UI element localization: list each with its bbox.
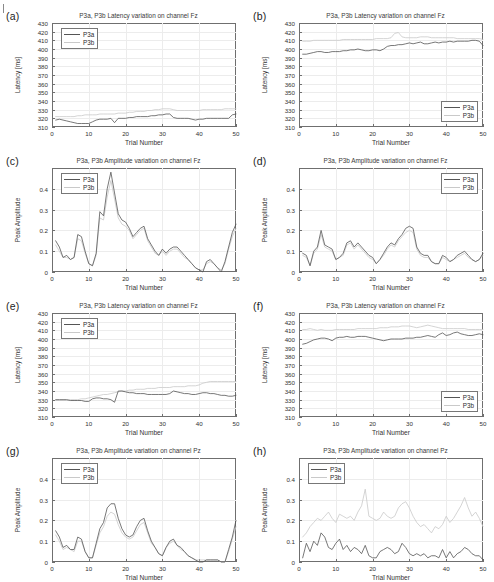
legend-swatch-P3b [311, 477, 327, 478]
y-tick-label: 320 [38, 115, 48, 122]
y-tick-label: 0 [45, 559, 48, 566]
x-tick-label: 30 [159, 565, 166, 572]
y-tick-label: 340 [38, 388, 48, 395]
y-tick-label: 360 [285, 370, 295, 377]
x-tick-label: 30 [406, 130, 413, 137]
legend-swatch-P3a [444, 397, 460, 398]
x-tick-mark [236, 269, 237, 272]
y-tick-label: 0.1 [39, 248, 48, 255]
y-tick-label: 350 [285, 379, 295, 386]
y-tick-mark [299, 417, 302, 418]
series-line-P3a [303, 533, 483, 560]
y-axis-label-f: Latency [ms] [261, 347, 268, 383]
legend-entry-P3a: P3a [444, 104, 474, 111]
plot-area-g: 00.10.20.30.401020304050P3aP3b [52, 458, 236, 562]
x-tick-label: 10 [85, 275, 92, 282]
series-line-P3a [56, 391, 236, 402]
plot-area-a: 3103203303403503603703803904004104204300… [52, 23, 236, 127]
y-axis-label-c: Peak Amplitude [14, 198, 21, 242]
y-tick-label: 370 [285, 72, 295, 79]
chart-panel-a: (a)P3a, P3b Latency variation on channel… [0, 8, 247, 153]
x-tick-label: 20 [369, 130, 376, 137]
x-tick-label: 0 [50, 275, 53, 282]
legend-label-P3b: P3b [83, 329, 94, 336]
legend-swatch-P3b [64, 42, 80, 43]
y-axis-label-h: Peak Amplitude [261, 488, 268, 532]
series-line-P3a [56, 504, 236, 562]
x-tick-label: 40 [196, 565, 203, 572]
y-tick-label: 360 [38, 80, 48, 87]
y-tick-label: 370 [285, 362, 295, 369]
x-tick-label: 10 [85, 130, 92, 137]
x-axis-label-c: Trial Number [125, 284, 163, 291]
series-line-P3b [303, 33, 483, 42]
y-tick-label: 0.4 [39, 185, 48, 192]
x-tick-label: 30 [406, 275, 413, 282]
y-tick-label: 430 [285, 20, 295, 27]
legend-label-P3a: P3a [463, 104, 474, 111]
y-tick-label: 390 [38, 54, 48, 61]
legend-entry-P3a: P3a [64, 31, 94, 38]
legend-swatch-P3a [64, 34, 80, 35]
legend-swatch-P3b [444, 405, 460, 406]
panel-letter-d: (d) [253, 155, 266, 167]
y-tick-label: 0.1 [39, 538, 48, 545]
plot-area-e: 3103203303403503603703803904004104204300… [52, 313, 236, 417]
panel-letter-c: (c) [6, 155, 19, 167]
x-tick-label: 20 [122, 130, 129, 137]
y-tick-label: 330 [285, 106, 295, 113]
y-tick-label: 410 [38, 327, 48, 334]
legend-label-P3a: P3a [83, 176, 94, 183]
legend-label-P3b: P3b [83, 184, 94, 191]
x-tick-label: 30 [159, 130, 166, 137]
chart-panel-g: (g)P3a, P3b Amplitude variation on chann… [0, 443, 247, 582]
x-tick-label: 40 [443, 565, 450, 572]
x-tick-label: 0 [297, 565, 300, 572]
x-tick-label: 10 [85, 420, 92, 427]
x-tick-label: 20 [369, 565, 376, 572]
y-tick-label: 350 [285, 89, 295, 96]
chart-panel-h: (h)P3a, P3b Amplitude variation on chann… [247, 443, 494, 582]
panel-letter-f: (f) [253, 300, 264, 312]
y-tick-label: 340 [285, 388, 295, 395]
y-tick-label: 310 [38, 124, 48, 131]
y-tick-label: 0.4 [39, 475, 48, 482]
x-tick-label: 10 [85, 565, 92, 572]
x-tick-mark [236, 124, 237, 127]
x-tick-label: 10 [332, 565, 339, 572]
x-axis-label-f: Trial Number [372, 429, 410, 436]
series-line-P3b [56, 512, 236, 562]
y-tick-label: 350 [38, 89, 48, 96]
x-tick-label: 0 [297, 130, 300, 137]
x-tick-mark [483, 414, 484, 417]
y-tick-label: 310 [38, 414, 48, 421]
y-tick-label: 430 [38, 20, 48, 27]
panel-letter-h: (h) [253, 445, 266, 457]
chart-panel-d: (d)P3a, P3b Amplitude variation on chann… [247, 153, 494, 298]
legend-swatch-P3a [444, 179, 460, 180]
legend-entry-P3a: P3a [64, 466, 94, 473]
plot-area-b: 3103203303403503603703803904004104204300… [299, 23, 483, 127]
x-tick-mark [236, 559, 237, 562]
y-tick-label: 330 [38, 106, 48, 113]
legend-label-P3a: P3a [83, 466, 94, 473]
y-tick-label: 380 [285, 63, 295, 70]
x-tick-label: 40 [196, 130, 203, 137]
x-tick-label: 20 [369, 420, 376, 427]
legend-entry-P3b: P3b [64, 184, 94, 191]
chart-panel-c: (c)P3a, P3b Amplitude variation on chann… [0, 153, 247, 298]
x-tick-label: 30 [159, 420, 166, 427]
y-tick-label: 390 [285, 344, 295, 351]
x-tick-label: 40 [196, 275, 203, 282]
plot-area-d: 00.10.20.30.401020304050P3aP3b [299, 168, 483, 272]
x-tick-label: 10 [332, 420, 339, 427]
x-tick-label: 40 [196, 420, 203, 427]
y-tick-mark [299, 127, 302, 128]
legend-swatch-P3a [64, 324, 80, 325]
y-tick-label: 420 [38, 318, 48, 325]
legend-f: P3aP3b [441, 391, 478, 412]
x-tick-label: 50 [233, 565, 240, 572]
y-tick-label: 0.3 [39, 206, 48, 213]
x-tick-label: 0 [50, 130, 53, 137]
legend-swatch-P3a [444, 107, 460, 108]
